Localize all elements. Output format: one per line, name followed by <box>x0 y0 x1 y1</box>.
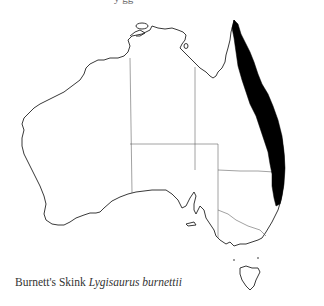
bass-strait-island-1 <box>233 259 235 261</box>
island-groote <box>184 44 188 49</box>
bass-strait-island-2 <box>257 257 259 259</box>
border-nsw-vic <box>218 210 266 236</box>
species-common-name: Burnett's Skink <box>15 276 86 288</box>
species-scientific-name: Lygisaurus burnettii <box>89 276 182 288</box>
border-wa <box>130 58 132 193</box>
australia-range-map <box>0 0 324 306</box>
island-tiwi <box>136 23 148 29</box>
island-kangaroo <box>186 222 196 226</box>
tasmania-coastline <box>240 266 260 290</box>
map-caption: Burnett's Skink Lygisaurus burnettii <box>15 276 182 288</box>
species-range-shading <box>232 20 285 206</box>
